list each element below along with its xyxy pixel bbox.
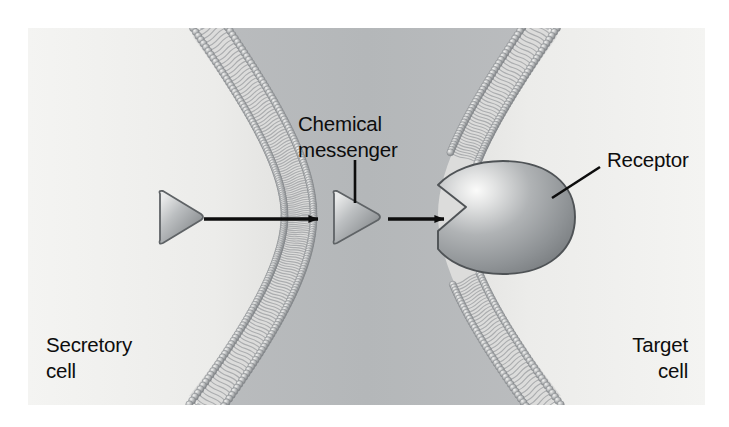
target-cell-label-line1: Target [632, 333, 688, 356]
secretory-cell-label-line2: cell [46, 359, 76, 382]
secretory-cell-label-line1: Secretory [46, 333, 133, 356]
cell-signaling-figure: Chemical messenger Receptor Secretory ce… [0, 0, 729, 427]
receptor-label: Receptor [607, 148, 689, 171]
chemical-messenger-label-line1: Chemical [298, 112, 382, 135]
target-cell-label-line2: cell [658, 359, 688, 382]
illustration-panel [28, 8, 705, 425]
diagram-canvas: Chemical messenger Receptor Secretory ce… [0, 0, 729, 427]
chemical-messenger-label-line2: messenger [298, 138, 398, 161]
